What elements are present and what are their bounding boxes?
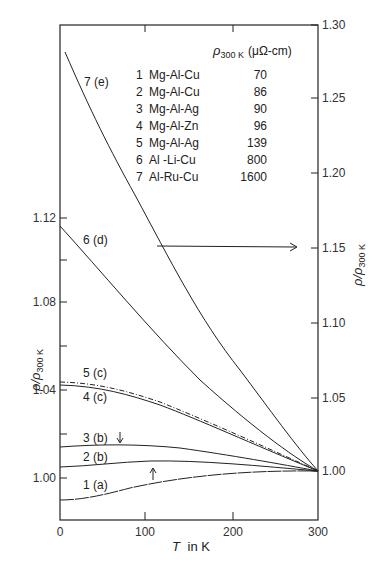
legend-id: 4 [136,119,143,133]
x-axis-title-T: T [172,539,181,554]
ytick-right-1.10: 1.10 [322,316,346,330]
xtick-300: 300 [308,525,328,539]
legend-id: 7 [136,170,143,184]
ytick-right-1.20: 1.20 [322,166,346,180]
legend-row-6: 6 Al -Li-Cu 800 [136,153,267,167]
legend-unit: (μΩ-cm) [248,44,292,58]
legend-row-1: 1 Mg-Al-Cu 70 [136,68,267,82]
arrow-to-right-axis [157,243,297,251]
ytick-right-1.30: 1.30 [322,18,346,32]
resistivity-chart: 1.00 1.04 1.08 1.12 1.00 1.05 1.10 1.15 … [0,0,378,565]
ytick-right-1.00: 1.00 [322,464,346,478]
y-right-rho: ρ/ρ [350,267,365,287]
y-right-sub: 300 K [357,244,367,268]
legend-sub: 300 K [220,50,244,60]
ytick-left-1.12: 1.12 [33,211,57,225]
curve-label-3: 3 (b) [83,431,108,445]
legend-id: 6 [136,153,143,167]
y-left-rho: ρ/ρ [28,372,43,392]
ytick-left-1.00: 1.00 [33,471,57,485]
legend-value: 800 [247,153,267,167]
legend-alloy: Al-Ru-Cu [149,170,198,184]
legend-alloy: Al -Li-Cu [149,153,196,167]
legend-header: ρ300 K(μΩ-cm) [212,43,292,60]
y-axis-title-left: ρ/ρ300 K [28,349,45,392]
legend-alloy: Mg-Al-Ag [149,102,199,116]
ytick-right-1.25: 1.25 [322,91,346,105]
legend-row-2: 2 Mg-Al-Cu 86 [136,85,267,99]
legend-value: 1600 [240,170,267,184]
legend-row-5: 5 Mg-Al-Ag 139 [136,136,267,150]
legend-value: 96 [254,119,268,133]
legend-value: 86 [254,85,268,99]
ytick-left-1.08: 1.08 [33,295,57,309]
up-arrow-icon [150,468,156,480]
curve-label-6: 6 (d) [83,233,108,247]
ytick-right-1.15: 1.15 [322,241,346,255]
right-y-ticks [311,25,318,471]
legend-row-7: 7 Al-Ru-Cu 1600 [136,170,267,184]
xtick-100: 100 [135,525,155,539]
curve-label-7: 7 (e) [84,75,109,89]
legend-row-3: 3 Mg-Al-Ag 90 [136,102,267,116]
down-arrow-icon [117,432,123,443]
curve-label-2: 2 (b) [83,450,108,464]
ytick-right-1.05: 1.05 [322,391,346,405]
curve-label-5: 5 (c) [83,366,107,380]
legend-alloy: Mg-Al-Ag [149,136,199,150]
legend-row-4: 4 Mg-Al-Zn 96 [136,119,267,133]
curve-label-4: 4 (c) [83,390,107,404]
legend: 1 Mg-Al-Cu 70 2 Mg-Al-Cu 86 3 Mg-Al-Ag 9… [136,68,267,184]
curve-label-1: 1 (a) [83,478,108,492]
y-left-sub: 300 K [35,349,45,373]
legend-id: 2 [136,85,143,99]
legend-value: 139 [247,136,267,150]
left-y-ticks [60,218,67,478]
legend-alloy: Mg-Al-Cu [149,68,200,82]
right-y-tick-labels: 1.00 1.05 1.10 1.15 1.20 1.25 1.30 [322,18,346,478]
y-axis-title-right: ρ/ρ300 K [350,244,367,287]
legend-id: 5 [136,136,143,150]
legend-id: 3 [136,102,143,116]
xtick-200: 200 [223,525,243,539]
x-axis-title: T in K [172,539,210,554]
left-y-tick-labels: 1.00 1.04 1.08 1.12 [33,211,57,485]
legend-value: 90 [254,102,268,116]
legend-alloy: Mg-Al-Zn [149,119,198,133]
xtick-0: 0 [57,525,64,539]
legend-id: 1 [136,68,143,82]
legend-value: 70 [254,68,268,82]
x-tick-labels: 0 100 200 300 [57,525,329,539]
x-axis-title-unit: in K [188,539,211,554]
legend-alloy: Mg-Al-Cu [149,85,200,99]
